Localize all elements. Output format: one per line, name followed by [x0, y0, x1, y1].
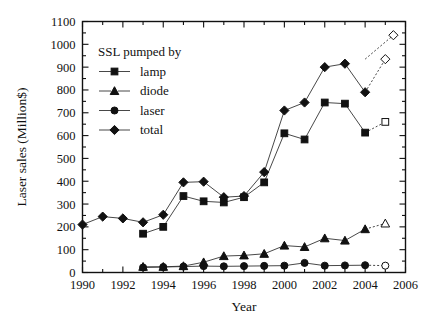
- datapoint-lamp: [321, 99, 328, 106]
- x-tick-label: 1994: [151, 278, 177, 292]
- y-tick-label: 900: [57, 61, 76, 75]
- y-tick-label: 1100: [51, 15, 76, 29]
- y-tick-label: 200: [57, 220, 76, 234]
- x-tick-label: 2004: [353, 278, 379, 292]
- legend-label-total: total: [140, 122, 163, 137]
- datapoint-laser: [180, 263, 187, 270]
- x-tick-label: 2006: [393, 278, 418, 292]
- chart-container: 010020030040050060070080090010001100 199…: [0, 0, 432, 326]
- datapoint-lamp: [160, 224, 167, 231]
- x-tick-label: 2000: [272, 278, 297, 292]
- y-tick-label: 600: [57, 129, 76, 143]
- datapoint-laser: [240, 263, 247, 270]
- y-tick-label: 800: [57, 83, 76, 97]
- datapoint-laser: [362, 262, 369, 269]
- legend-label-lamp: lamp: [140, 64, 166, 79]
- x-axis-tick-labels: 199019921994199619982000200220042006: [70, 278, 418, 292]
- y-tick-label: 100: [57, 243, 76, 257]
- datapoint-laser: [160, 263, 167, 270]
- x-tick-label: 1992: [110, 278, 135, 292]
- legend-title: SSL pumped by: [98, 44, 182, 59]
- y-tick-label: 1000: [51, 38, 76, 52]
- legend-label-diode: diode: [140, 83, 169, 98]
- datapoint-lamp: [140, 230, 147, 237]
- datapoint-laser: [321, 262, 328, 269]
- datapoint-laser: [281, 262, 288, 269]
- datapoint-laser: [301, 259, 308, 266]
- datapoint-lamp: [362, 129, 369, 136]
- projected-marker-lamp: [382, 119, 389, 126]
- datapoint-laser: [140, 264, 147, 271]
- projected-marker-laser: [382, 262, 389, 269]
- datapoint-lamp: [281, 130, 288, 137]
- laser-sales-line-chart: 010020030040050060070080090010001100 199…: [0, 0, 432, 326]
- legend-marker-lamp: [111, 68, 118, 75]
- datapoint-lamp: [261, 179, 268, 186]
- datapoint-lamp: [180, 193, 187, 200]
- datapoint-lamp: [342, 100, 349, 107]
- x-tick-label: 1996: [191, 278, 216, 292]
- datapoint-laser: [220, 263, 227, 270]
- y-axis-title: Laser sales (Million$): [14, 87, 29, 206]
- x-tick-label: 1998: [232, 278, 257, 292]
- x-tick-label: 1990: [70, 278, 95, 292]
- datapoint-lamp: [301, 136, 308, 143]
- y-tick-label: 300: [57, 198, 76, 212]
- projected-point-laser: [382, 262, 389, 269]
- y-tick-label: 700: [57, 106, 76, 120]
- legend-label-laser: laser: [140, 103, 165, 118]
- y-tick-label: 500: [57, 152, 76, 166]
- datapoint-lamp: [200, 198, 207, 205]
- legend-marker-laser: [111, 107, 118, 114]
- x-axis-title: Year: [232, 299, 257, 314]
- datapoint-laser: [341, 262, 348, 269]
- x-tick-label: 2002: [312, 278, 337, 292]
- y-tick-label: 400: [57, 175, 76, 189]
- datapoint-laser: [261, 262, 268, 269]
- projected-point-lamp: [382, 119, 389, 126]
- datapoint-laser: [200, 263, 207, 270]
